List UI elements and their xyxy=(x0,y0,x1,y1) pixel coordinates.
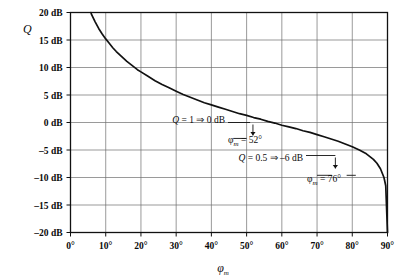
y-tick-label: –20 dB xyxy=(33,228,63,238)
y-tick-label: 10 dB xyxy=(39,63,63,73)
y-tick-label: –15 dB xyxy=(33,201,63,211)
x-tick-label: 80° xyxy=(346,241,360,251)
x-tick-label: 70° xyxy=(310,241,324,251)
annotation-q-equals-1-value: = 1 ⇒ 0 dB xyxy=(179,115,225,125)
q-vs-phase-margin-chart: 0°10°20°30°40°50°60°70°80°90° 20 dB15 dB… xyxy=(0,0,406,280)
y-tick-label: 0 dB xyxy=(44,118,63,128)
y-tick-label: 5 dB xyxy=(44,91,63,101)
y-tick-label: 20 dB xyxy=(39,8,63,18)
x-tick-label: 20° xyxy=(134,241,148,251)
x-tick-label: 60° xyxy=(275,241,289,251)
y-tick-label: –5 dB xyxy=(38,146,63,156)
x-tick-label: 40° xyxy=(205,241,219,251)
y-axis-title: Q xyxy=(23,22,32,36)
annotation-phim-52-value: = 52° xyxy=(239,135,263,145)
annotation-q-equals-0p5: Q = 0.5 ⇒ –6 dB xyxy=(238,153,303,163)
x-axis-title-subscript: m xyxy=(224,269,229,277)
annotation-phim-76-value: = 76° xyxy=(318,174,342,184)
chart-figure: 0°10°20°30°40°50°60°70°80°90° 20 dB15 dB… xyxy=(0,0,406,280)
annotation-q-equals-1: Q = 1 ⇒ 0 dB xyxy=(172,115,225,125)
x-tick-label: 10° xyxy=(99,241,113,251)
x-tick-label: 50° xyxy=(240,241,254,251)
annotation-q-equals-0p5-value: = 0.5 ⇒ –6 dB xyxy=(245,153,303,163)
y-tick-label: 15 dB xyxy=(39,36,63,46)
y-tick-label: –10 dB xyxy=(33,173,63,183)
x-tick-label: 90° xyxy=(381,241,395,251)
x-tick-label: 30° xyxy=(170,241,184,251)
x-tick-label: 0° xyxy=(66,241,75,251)
